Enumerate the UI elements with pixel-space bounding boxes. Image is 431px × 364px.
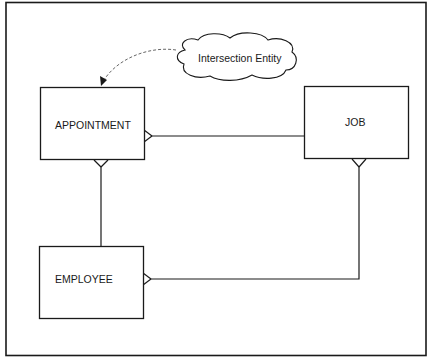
annotation-label: Intersection Entity <box>198 52 282 64</box>
relationship-employee-job <box>143 159 366 285</box>
entity-job-label: JOB <box>345 116 365 128</box>
er-diagram: APPOINTMENT JOB EMPLOYEE Intersection En… <box>0 0 431 364</box>
relationship-appointment-job <box>144 130 304 142</box>
relationship-appointment-employee <box>94 160 108 246</box>
annotation-arrow <box>100 49 176 86</box>
entity-appointment[interactable]: APPOINTMENT <box>41 88 145 160</box>
arrowhead-icon <box>100 76 107 86</box>
entity-job[interactable]: JOB <box>305 87 409 159</box>
entity-employee[interactable]: EMPLOYEE <box>40 247 144 319</box>
entity-appointment-label: APPOINTMENT <box>55 119 131 131</box>
entity-employee-label: EMPLOYEE <box>55 273 113 285</box>
annotation-cloud: Intersection Entity <box>177 33 296 80</box>
